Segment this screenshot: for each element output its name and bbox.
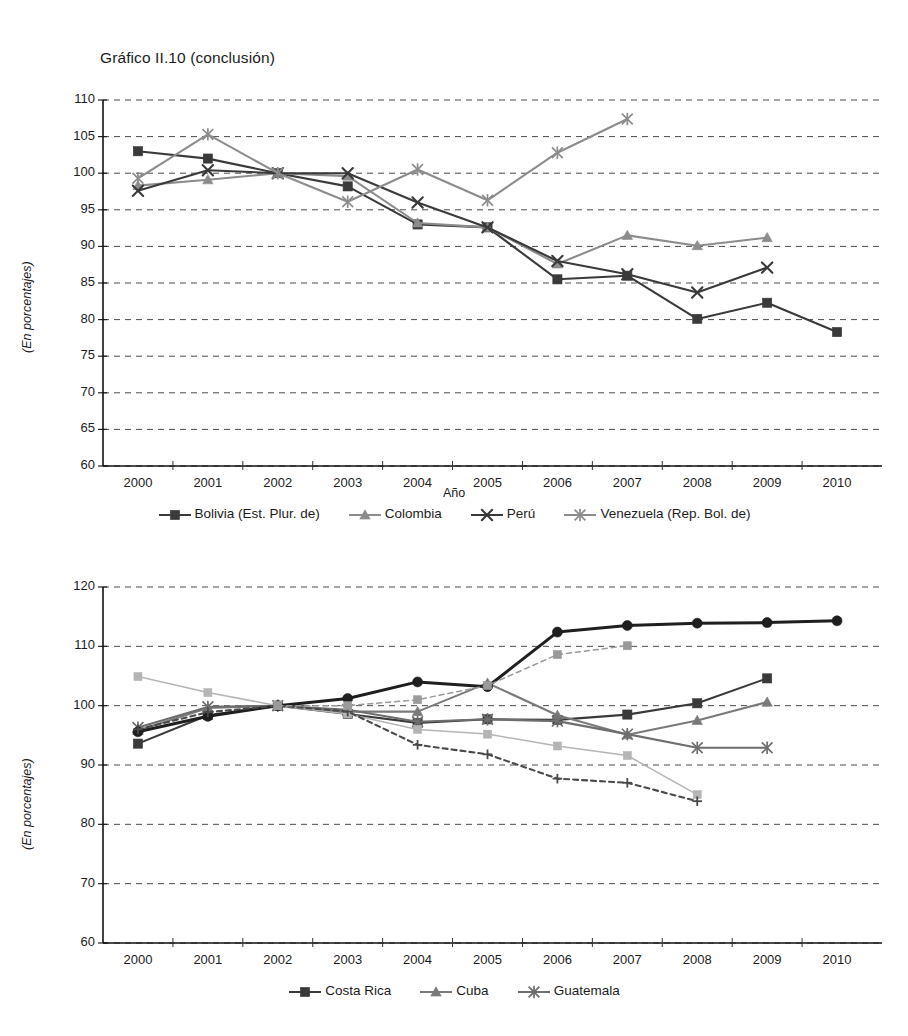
x-tick-label: 2000 [108, 475, 168, 490]
y-tick-label: 80 [57, 815, 95, 830]
x-tick-label: 2004 [388, 952, 448, 967]
x-tick-label: 2006 [527, 475, 587, 490]
legend-item-label: Bolivia (Est. Plur. de) [195, 506, 320, 521]
chart-panel-top: (En porcentajes) Año Bolivia (Est. Plur.… [0, 88, 908, 548]
legend-item[interactable]: Costa Rica [288, 983, 391, 998]
y-axis-label-top: (En porcentajes) [20, 261, 34, 353]
x-tick-label: 2001 [178, 952, 238, 967]
y-tick-label: 85 [57, 274, 95, 289]
y-tick-label: 70 [57, 384, 95, 399]
legend-item-label: Costa Rica [325, 983, 391, 998]
legend-item[interactable]: Perú [470, 506, 536, 521]
y-tick-label: 100 [57, 164, 95, 179]
y-axis-label-bottom: (En porcentajes) [20, 758, 34, 850]
y-tick-label: 80 [57, 311, 95, 326]
x-tick-label: 2008 [667, 475, 727, 490]
line-chart-top [0, 88, 908, 488]
line-chart-bottom [0, 565, 908, 975]
chart-page: Gráfico II.10 (conclusión) (En porcentaj… [0, 0, 908, 1036]
series-cuba [133, 678, 773, 739]
y-tick-label: 110 [57, 637, 95, 652]
legend-top: Bolivia (Est. Plur. de)ColombiaPerúVenez… [0, 506, 908, 521]
series-serie-cuadro-claro [134, 673, 701, 799]
y-tick-label: 100 [57, 697, 95, 712]
x-tick-label: 2008 [667, 952, 727, 967]
y-tick-label: 90 [57, 756, 95, 771]
y-tick-label: 70 [57, 875, 95, 890]
y-tick-label: 75 [57, 347, 95, 362]
x-tick-label: 2004 [388, 475, 448, 490]
y-tick-label: 95 [57, 201, 95, 216]
legend-item-label: Venezuela (Rep. Bol. de) [600, 506, 750, 521]
legend-item[interactable]: Bolivia (Est. Plur. de) [158, 506, 320, 521]
legend-item-label: Perú [507, 506, 536, 521]
legend-item-label: Cuba [456, 983, 488, 998]
legend-item[interactable]: Colombia [348, 506, 442, 521]
x-tick-label: 2003 [318, 952, 378, 967]
x-tick-label: 2006 [527, 952, 587, 967]
y-tick-label: 60 [57, 934, 95, 949]
y-tick-label: 60 [57, 457, 95, 472]
asterisk-marker-icon [563, 507, 597, 521]
x-tick-label: 2005 [458, 475, 518, 490]
legend-item-label: Colombia [385, 506, 442, 521]
legend-item-label: Guatemala [554, 983, 620, 998]
series-colombia [133, 168, 773, 268]
y-tick-label: 110 [57, 91, 95, 106]
x-tick-label: 2010 [807, 952, 867, 967]
asterisk-marker-icon [517, 984, 551, 998]
x-tick-label: 2001 [178, 475, 238, 490]
x-tick-label: 2007 [597, 475, 657, 490]
square-marker-icon [158, 507, 192, 521]
y-tick-label: 65 [57, 420, 95, 435]
x-tick-label: 2009 [737, 952, 797, 967]
legend-item[interactable]: Cuba [419, 983, 488, 998]
x-tick-label: 2009 [737, 475, 797, 490]
chart-panel-bottom: (En porcentajes) Costa RicaCubaGuatemala… [0, 565, 908, 1036]
triangle-marker-icon [348, 507, 382, 521]
x-tick-label: 2007 [597, 952, 657, 967]
triangle-marker-icon [419, 984, 453, 998]
x-tick-label: 2002 [248, 475, 308, 490]
legend-item[interactable]: Guatemala [517, 983, 620, 998]
x-marker-icon [470, 507, 504, 521]
y-tick-label: 120 [57, 578, 95, 593]
x-tick-label: 2003 [318, 475, 378, 490]
page-title: Gráfico II.10 (conclusión) [100, 49, 275, 67]
legend-item[interactable]: Venezuela (Rep. Bol. de) [563, 506, 750, 521]
x-tick-label: 2002 [248, 952, 308, 967]
legend-bottom: Costa RicaCubaGuatemala [0, 983, 908, 998]
x-tick-label: 2005 [458, 952, 518, 967]
x-tick-label: 2000 [108, 952, 168, 967]
y-tick-label: 105 [57, 128, 95, 143]
y-tick-label: 90 [57, 237, 95, 252]
x-tick-label: 2010 [807, 475, 867, 490]
square-marker-icon [288, 984, 322, 998]
